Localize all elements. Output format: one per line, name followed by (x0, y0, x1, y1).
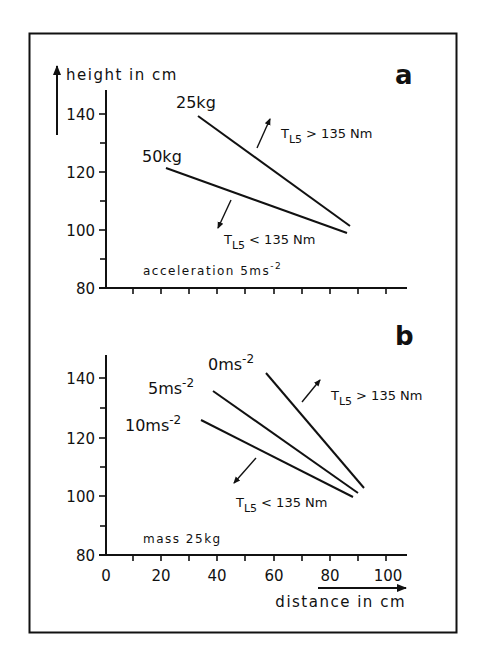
panel-b-x-tick-0: 0 (101, 567, 111, 585)
panel-a-y-ticks (99, 114, 106, 259)
panel-a-label-50kg: 50kg (142, 147, 182, 166)
panel-b-arrow-up-icon (302, 380, 320, 402)
panel-b-label-0ms: 0ms-2 (208, 352, 254, 374)
x-axis-title: distance in cm (275, 593, 406, 611)
panel-b-x-tick-60: 60 (264, 567, 283, 585)
panel-a-y-tick-100: 100 (66, 222, 95, 240)
panel-b-y-tick-140: 140 (66, 370, 95, 388)
panel-a-label-25kg: 25kg (176, 93, 216, 112)
panel-b-line-10ms (201, 420, 353, 497)
panel-b-y-tick-80: 80 (76, 547, 95, 565)
panel-b-x-tick-100: 100 (374, 567, 403, 585)
panel-b: b 140 120 100 80 0 20 40 (66, 321, 422, 611)
panel-b-label-5ms: 5ms-2 (148, 376, 194, 398)
panel-b-x-tick-80: 80 (320, 567, 339, 585)
panel-b-label: b (395, 321, 414, 351)
panel-a-arrow-up-icon (257, 119, 270, 148)
panel-b-label-10ms: 10ms-2 (125, 413, 181, 435)
panel-b-region-below: TL5< 135 Nm (235, 495, 327, 515)
panel-a-line-50kg (166, 168, 347, 233)
figure: height in cm a 140 120 100 80 (0, 0, 479, 665)
panel-a-y-tick-80: 80 (76, 280, 95, 298)
panel-a-y-tick-120: 120 (66, 164, 95, 182)
panel-b-arrow-down-icon (234, 458, 256, 483)
panel-b-y-tick-100: 100 (66, 488, 95, 506)
panel-a-region-above: TL5> 135 Nm (280, 126, 372, 146)
panel-a-condition: acceleration 5ms-2 (143, 261, 282, 278)
panel-b-line-5ms (213, 391, 358, 493)
panel-a-label: a (395, 60, 413, 90)
panel-b-line-0ms (266, 373, 364, 488)
panel-b-y-ticks (99, 378, 106, 526)
panel-a-arrow-down-icon (218, 200, 231, 228)
panel-a: a 140 120 100 80 (66, 60, 412, 298)
panel-b-region-above: TL5> 135 Nm (330, 388, 422, 408)
y-axis-title: height in cm (66, 66, 178, 84)
panel-b-y-tick-120: 120 (66, 430, 95, 448)
panel-b-x-tick-20: 20 (151, 567, 170, 585)
panel-a-region-below: TL5< 135 Nm (223, 232, 315, 252)
panel-a-y-tick-140: 140 (66, 106, 95, 124)
panel-b-x-tick-40: 40 (207, 567, 226, 585)
panel-b-condition: mass 25kg (143, 532, 222, 546)
